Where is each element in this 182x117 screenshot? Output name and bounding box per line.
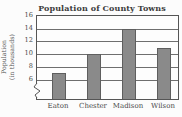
y-tick-label-6: 6 [17,75,33,83]
x-category-label-madison: Madison [108,102,148,110]
gridline-14 [37,29,178,30]
y-tick-label-10: 10 [17,49,33,57]
bar-wilson [157,48,171,99]
bar-chart: Population of County Towns Population (i… [0,0,182,117]
gridline-12 [37,41,178,42]
x-category-label-chester: Chester [73,102,113,110]
y-tick-label-16: 16 [17,11,33,19]
y-axis-label: Population (in thousands) [0,16,16,98]
axis-break-icon [31,83,43,98]
y-tick-label-12: 12 [17,36,33,44]
chart-title: Population of County Towns [22,3,182,13]
y-axis-label-line1: Population [0,16,8,98]
x-category-label-wilson: Wilson [143,102,182,110]
bar-chester [87,54,101,99]
y-tick-label-8: 8 [17,62,33,70]
plot-area [36,15,179,100]
x-category-label-eaton: Eaton [38,102,78,110]
bar-eaton [52,73,66,99]
y-tick-label-14: 14 [17,24,33,32]
bar-madison [122,29,136,99]
y-axis-label-line2: (in thousands) [8,16,16,98]
